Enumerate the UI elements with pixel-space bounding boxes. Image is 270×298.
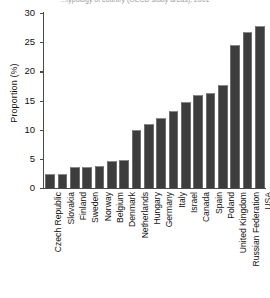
x-category-label: Denmark [127, 192, 137, 227]
x-category-label: United Kingdom [238, 192, 248, 253]
y-tick-label: 0 [30, 182, 35, 193]
x-category-label: Italy [177, 192, 187, 208]
bar [95, 166, 105, 188]
y-axis-label: Proportion (%) [9, 38, 19, 148]
x-category-label: Belgium [115, 192, 125, 223]
y-tick-label: 10 [24, 124, 35, 135]
x-category-label: Sweden [90, 192, 100, 223]
bar [243, 32, 253, 188]
x-category-label: Norway [103, 192, 113, 221]
bar [156, 118, 166, 188]
bar [119, 160, 129, 188]
bar [132, 130, 142, 188]
x-axis-line [43, 188, 266, 189]
bar [206, 93, 216, 188]
chart-title-text: ...typology of country (OECD study areas… [0, 0, 270, 5]
bar [169, 111, 179, 188]
bar [218, 85, 228, 188]
bar [144, 124, 154, 188]
x-category-label: Finland [78, 192, 88, 220]
x-category-label: Czech Republic [53, 192, 63, 252]
bar [45, 174, 55, 188]
bar [230, 45, 240, 189]
bar [107, 161, 117, 188]
x-category-label: Israel [189, 192, 199, 213]
bar [193, 95, 203, 188]
x-category-label: Slovakia [66, 192, 76, 224]
x-category-label: Poland [226, 192, 236, 219]
x-category-label: Canada [201, 192, 211, 222]
x-category-label: USA [263, 192, 270, 210]
x-category-label: Netherlands [140, 192, 150, 238]
bar [255, 26, 265, 188]
plot-area [44, 13, 266, 188]
x-category-label: Germany [164, 192, 174, 227]
x-category-label: Hungary [152, 192, 162, 224]
bar-chart-figure: ...typology of country (OECD study areas… [0, 0, 270, 298]
y-tick-label: 30 [24, 7, 35, 18]
x-category-label: Russian Federation [251, 192, 261, 267]
bar [70, 167, 80, 188]
x-category-label: Spain [214, 192, 224, 214]
y-tick-label: 5 [30, 153, 35, 164]
bar [58, 174, 68, 188]
y-tick-label: 15 [24, 95, 35, 106]
bar [181, 102, 191, 188]
bar [82, 167, 92, 188]
chart-title-clipped: ...typology of country (OECD study areas… [0, 0, 270, 5]
y-tick-mark [40, 188, 44, 189]
y-tick-label: 20 [24, 65, 35, 76]
y-tick-label: 25 [24, 36, 35, 47]
